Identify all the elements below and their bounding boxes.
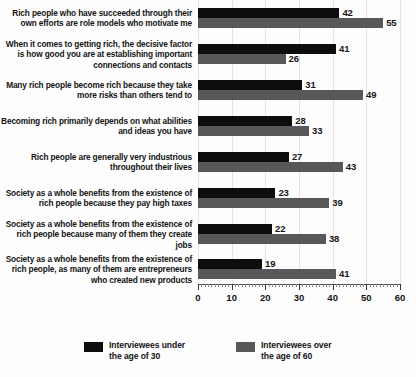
axis-tick-minor [316, 284, 317, 287]
gridline [400, 0, 401, 285]
bar-value-label: 43 [343, 162, 356, 172]
axis-tick-major [232, 284, 233, 290]
bar-group: 2743 [198, 152, 400, 173]
bar-value-label: 22 [272, 224, 285, 234]
axis-tick-minor [259, 284, 260, 287]
category-label: Rich people who have succeeded through t… [0, 8, 192, 29]
bar-over-60: 41 [198, 269, 336, 279]
category-label: Society as a whole benefits from the exi… [0, 254, 192, 285]
x-axis-tick-label: 20 [260, 292, 271, 303]
axis-tick-major [299, 284, 300, 290]
bar-value-label: 55 [383, 18, 396, 28]
axis-tick-minor [356, 284, 357, 287]
axis-tick-minor [292, 284, 293, 287]
category-label: When it comes to getting rich, the decis… [0, 39, 192, 70]
bar-chart: Rich people who have succeeded through t… [0, 0, 416, 377]
bar-over-60: 39 [198, 198, 329, 208]
bar-group: 1941 [198, 259, 400, 280]
x-axis [198, 284, 400, 292]
axis-tick-minor [289, 284, 290, 287]
legend-swatch [236, 342, 255, 352]
bar-under-30: 41 [198, 44, 336, 54]
axis-tick-major [400, 284, 401, 290]
category-label: Society as a whole benefits from the exi… [0, 219, 192, 250]
axis-tick-minor [228, 284, 229, 287]
axis-tick-minor [302, 284, 303, 287]
bar-over-60: 33 [198, 126, 309, 136]
axis-tick-minor [296, 284, 297, 287]
axis-tick-major [333, 284, 334, 290]
axis-tick-minor [306, 284, 307, 287]
axis-tick-minor [205, 284, 206, 287]
axis-tick-minor [282, 284, 283, 287]
axis-tick-minor [329, 284, 330, 287]
plot-area: 42554126314928332743233922381941 [198, 0, 400, 285]
axis-tick-minor [397, 284, 398, 287]
axis-tick-minor [249, 284, 250, 287]
category-label: Becoming rich primarily depends on what … [0, 116, 192, 137]
bar-under-30: 27 [198, 152, 289, 162]
axis-tick-minor [343, 284, 344, 287]
bar-under-30: 42 [198, 8, 339, 18]
axis-tick-minor [353, 284, 354, 287]
category-label: Rich people are generally very industrio… [0, 152, 192, 173]
x-axis-tick-labels: 0102030405060 [198, 292, 400, 306]
bar-under-30: 23 [198, 188, 275, 198]
x-axis-tick-label: 30 [294, 292, 305, 303]
axis-tick-minor [387, 284, 388, 287]
bar-value-label: 23 [275, 188, 288, 198]
bar-over-60: 26 [198, 54, 286, 64]
bar-group: 2238 [198, 224, 400, 245]
axis-tick-minor [360, 284, 361, 287]
legend-label: Interviewees under the age of 30 [109, 340, 185, 361]
bar-group: 2833 [198, 116, 400, 137]
bar-group: 3149 [198, 80, 400, 101]
bar-value-label: 31 [302, 80, 315, 90]
bar-value-label: 38 [326, 234, 339, 244]
legend-item[interactable]: Interviewees under the age of 30 [84, 340, 185, 361]
legend-label: Interviewees over the age of 60 [261, 340, 331, 361]
axis-tick-minor [238, 284, 239, 287]
legend-item[interactable]: Interviewees over the age of 60 [236, 340, 331, 361]
axis-tick-major [198, 284, 199, 290]
bar-value-label: 41 [336, 269, 349, 279]
x-axis-tick-label: 40 [327, 292, 338, 303]
axis-tick-minor [393, 284, 394, 287]
x-axis-tick-label: 10 [226, 292, 237, 303]
chart-legend: Interviewees under the age of 30Intervie… [0, 334, 416, 377]
axis-tick-minor [255, 284, 256, 287]
axis-tick-minor [370, 284, 371, 287]
axis-tick-minor [312, 284, 313, 287]
bar-over-60: 49 [198, 90, 363, 100]
axis-tick-minor [323, 284, 324, 287]
axis-tick-minor [218, 284, 219, 287]
bar-over-60: 55 [198, 18, 383, 28]
axis-tick-minor [222, 284, 223, 287]
bar-value-label: 33 [309, 126, 322, 136]
bar-under-30: 19 [198, 259, 262, 269]
axis-tick-minor [215, 284, 216, 287]
axis-tick-minor [279, 284, 280, 287]
axis-tick-minor [272, 284, 273, 287]
bar-under-30: 22 [198, 224, 272, 234]
axis-tick-minor [252, 284, 253, 287]
bar-value-label: 19 [262, 259, 275, 269]
category-labels: Rich people who have succeeded through t… [0, 0, 192, 285]
bar-value-label: 41 [336, 44, 349, 54]
axis-tick-minor [245, 284, 246, 287]
bar-group: 4126 [198, 44, 400, 65]
bar-group: 4255 [198, 8, 400, 29]
axis-tick-minor [262, 284, 263, 287]
axis-tick-minor [346, 284, 347, 287]
bar-value-label: 28 [292, 116, 305, 126]
axis-tick-minor [211, 284, 212, 287]
bar-under-30: 28 [198, 116, 292, 126]
axis-tick-minor [242, 284, 243, 287]
x-axis-tick-label: 60 [395, 292, 406, 303]
bar-value-label: 26 [286, 54, 299, 64]
axis-tick-minor [373, 284, 374, 287]
axis-tick-minor [326, 284, 327, 287]
axis-tick-major [265, 284, 266, 290]
axis-tick-minor [363, 284, 364, 287]
axis-tick-minor [376, 284, 377, 287]
